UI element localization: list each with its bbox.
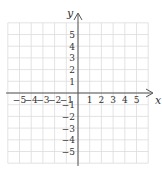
- y-tick-label: 5: [69, 30, 75, 40]
- y-tick-label: −3: [62, 124, 76, 134]
- y-axis-label: y: [66, 7, 74, 20]
- x-axis-label: x: [155, 94, 162, 107]
- coordinate-plane: x y −5−4−3−2−112345 54321−1−2−3−4−5: [0, 0, 162, 169]
- y-tick-label: −1: [62, 100, 75, 110]
- x-tick-label: 3: [110, 95, 116, 105]
- y-tick-label: −4: [62, 135, 76, 145]
- y-tick-label: −2: [62, 112, 75, 122]
- y-tick-label: 1: [69, 77, 75, 87]
- y-tick-label: 4: [69, 42, 75, 52]
- x-tick-label: 1: [87, 95, 93, 105]
- x-tick-label: 4: [122, 95, 128, 105]
- y-tick-label: 3: [69, 53, 75, 63]
- x-tick-label: 2: [99, 95, 105, 105]
- y-tick-label: −5: [62, 147, 76, 157]
- axes: [6, 13, 153, 166]
- x-tick-label: 5: [134, 95, 140, 105]
- x-tick-labels: −5−4−3−2−112345: [13, 95, 140, 105]
- y-tick-label: 2: [69, 65, 75, 75]
